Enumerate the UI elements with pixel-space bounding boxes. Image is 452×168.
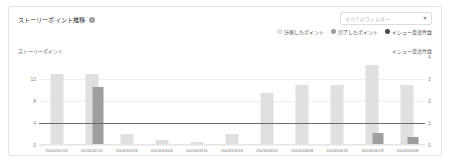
legend-item-completed[interactable]: 完了したポイント: [331, 28, 378, 35]
x-tick-label: 2024/02/26: [109, 148, 144, 153]
bar-group[interactable]: [144, 57, 179, 145]
y-tick-label-right: 0: [428, 142, 431, 148]
info-icon[interactable]: i: [89, 17, 95, 23]
x-tick-label: 2024/05/08: [390, 148, 425, 153]
story-point-chart-card: ストーリーポイント推移 i すべてのフィルター 計画したポイント 完了したポイン…: [8, 6, 442, 156]
issue-delivery-line: [39, 123, 425, 124]
bar-group[interactable]: [390, 57, 425, 145]
legend-item-issue-delivery[interactable]: イシュー受渡件数: [385, 28, 432, 35]
x-tick-label: 2024/03/04: [144, 148, 179, 153]
bar-group[interactable]: [109, 57, 144, 145]
x-tick-label: 2024/02/16: [74, 148, 109, 153]
bar-group[interactable]: [214, 57, 249, 145]
y-tick-label-left: 8: [33, 98, 36, 104]
y-tick-label-left: 4: [33, 120, 36, 126]
x-tick-label: 2024/02/13: [39, 148, 74, 153]
bar-planned[interactable]: [296, 85, 309, 146]
bar-group[interactable]: [74, 57, 109, 145]
y-tick-label-right: 3: [428, 76, 431, 82]
bar-group[interactable]: [320, 57, 355, 145]
card-header: ストーリーポイント推移 i: [18, 15, 95, 24]
y-tick-label-right: 2: [428, 98, 431, 104]
x-axis-labels: 2024/02/132024/02/162024/02/262024/03/04…: [39, 148, 425, 153]
chart-legend: 計画したポイント 完了したポイント イシュー受渡件数: [277, 28, 432, 35]
legend-label-planned: 計画したポイント: [284, 28, 324, 35]
legend-swatch-planned: [277, 29, 282, 34]
chevron-down-icon: [423, 17, 427, 20]
y-axis-caption-left: ストーリーポイント: [18, 47, 63, 54]
x-tick-label: 2024/03/18: [214, 148, 249, 153]
bar-planned[interactable]: [261, 93, 274, 145]
chart-plot-area: 04812 01234: [39, 57, 425, 145]
legend-label-issue-delivery: イシュー受渡件数: [392, 28, 432, 35]
bar-series-layer: [39, 57, 425, 145]
page-title: ストーリーポイント推移: [18, 15, 85, 24]
x-tick-label: 2024/04/01: [250, 148, 285, 153]
filter-dropdown[interactable]: すべてのフィルター: [340, 12, 432, 25]
y-tick-label-left: 12: [30, 76, 36, 82]
y-tick-label-left: 0: [33, 142, 36, 148]
bar-completed[interactable]: [92, 87, 103, 145]
legend-swatch-completed: [331, 29, 336, 34]
y-tick-label-right: 1: [428, 120, 431, 126]
bar-group[interactable]: [285, 57, 320, 145]
bar-planned[interactable]: [331, 85, 344, 146]
x-axis-baseline: [39, 144, 425, 145]
legend-swatch-issue-delivery: [385, 29, 390, 34]
y-tick-label-right: 4: [428, 54, 431, 60]
filter-dropdown-value: すべてのフィルター: [345, 15, 390, 22]
y-axis-caption-right: イシュー受渡件数: [392, 47, 432, 54]
bar-group[interactable]: [179, 57, 214, 145]
bar-planned[interactable]: [401, 85, 414, 146]
legend-label-completed: 完了したポイント: [338, 28, 378, 35]
legend-item-planned[interactable]: 計画したポイント: [277, 28, 324, 35]
x-tick-label: 2024/03/11: [179, 148, 214, 153]
x-tick-label: 2024/04/15: [320, 148, 355, 153]
x-tick-label: 2024/04/08: [285, 148, 320, 153]
bar-group[interactable]: [250, 57, 285, 145]
x-tick-label: 2024/04/19: [355, 148, 390, 153]
bar-group[interactable]: [39, 57, 74, 145]
bar-group[interactable]: [355, 57, 390, 145]
bar-planned[interactable]: [50, 74, 63, 146]
gridline: [39, 145, 425, 146]
